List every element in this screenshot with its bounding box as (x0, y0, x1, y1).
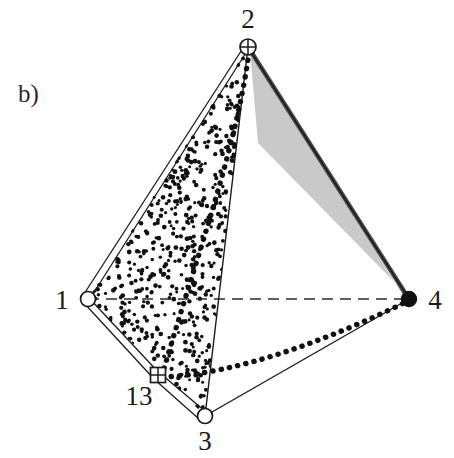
stipple-dot (179, 179, 182, 182)
stipple-dot (225, 107, 229, 111)
stipple-dot (214, 183, 217, 186)
stipple-dot (202, 196, 207, 201)
stipple-dot (170, 207, 173, 210)
stipple-dot (171, 232, 175, 236)
stipple-dot (188, 165, 191, 168)
stipple-dot (106, 276, 110, 280)
stipple-dot (97, 293, 100, 296)
stipple-dot (210, 225, 213, 228)
stipple-dot (150, 304, 154, 308)
stipple-dot (198, 355, 201, 358)
stipple-dot (230, 82, 234, 86)
stipple-dot (126, 319, 130, 323)
stipple-dot (120, 301, 124, 305)
stipple-dot (168, 185, 172, 189)
stipple-dot (195, 316, 199, 320)
stipple-dot (180, 361, 184, 365)
stipple-dot (180, 169, 183, 172)
stipple-dot (119, 306, 123, 310)
vertex-marker-1[interactable] (81, 292, 96, 307)
stipple-dot (180, 273, 184, 277)
stipple-dot (222, 206, 226, 210)
stipple-dot (142, 252, 146, 256)
stipple-dot (165, 246, 169, 250)
stipple-dot (182, 333, 185, 336)
stipple-dot (179, 201, 182, 204)
stipple-dot (151, 258, 155, 262)
stipple-dot (193, 323, 197, 327)
stipple-dot (145, 287, 149, 291)
vertex-marker-4[interactable] (402, 292, 417, 307)
stipple-dot (161, 346, 165, 350)
stipple-dot (205, 349, 208, 352)
stipple-dot (132, 328, 136, 332)
stipple-dot (144, 229, 148, 233)
stipple-dot (183, 388, 187, 392)
stipple-dot (141, 304, 145, 308)
stipple-dot (193, 201, 196, 204)
stipple-dot (129, 267, 133, 271)
stipple-dot (209, 264, 213, 268)
stipple-dot (171, 358, 174, 361)
stipple-dot (200, 285, 204, 289)
stipple-dot (128, 301, 131, 304)
stipple-dot (159, 255, 162, 258)
stipple-dot (169, 293, 173, 297)
stipple-dot (202, 305, 206, 309)
stipple-dot (175, 235, 179, 239)
stipple-dot (193, 159, 198, 164)
stipple-dot (196, 378, 201, 383)
stipple-dot (229, 102, 233, 106)
vertex-marker-2[interactable] (240, 39, 256, 55)
stipple-dot (160, 208, 164, 212)
stipple-dot (217, 223, 221, 227)
stipple-dot (202, 188, 206, 192)
stipple-dot (161, 195, 166, 200)
stipple-dot (167, 269, 171, 273)
stipple-dot (192, 320, 195, 323)
stipple-dot (186, 158, 191, 163)
stipple-dot (175, 287, 179, 291)
stipple-dot (185, 365, 188, 368)
stipple-dot (183, 348, 188, 353)
stipple-dot (119, 284, 123, 288)
stipple-dot (115, 260, 118, 263)
stipple-dot (155, 341, 159, 345)
stipple-dot (129, 281, 133, 285)
stipple-dot (200, 163, 203, 166)
stipple-dot (187, 299, 191, 303)
vertex-marker-13[interactable] (151, 368, 166, 383)
vertex-marker-3[interactable] (198, 409, 213, 424)
stipple-dot (158, 332, 163, 337)
stipple-dot (168, 220, 172, 224)
figure-container: 1 2 3 4 13 b) (0, 0, 454, 458)
stipple-dot (181, 174, 185, 178)
stipple-dot (212, 276, 215, 279)
stipple-dot (226, 103, 230, 107)
stipple-dot (178, 190, 182, 194)
stipple-dot (212, 262, 215, 265)
stipple-dot (158, 285, 162, 289)
stipple-dot (212, 287, 216, 291)
stipple-dot (181, 287, 184, 290)
stipple-dot (175, 199, 179, 203)
stipple-dot (169, 367, 173, 371)
stipple-dot (164, 211, 167, 214)
stipple-dot (156, 353, 160, 357)
stipple-dot (179, 166, 183, 170)
stipple-dot (183, 340, 188, 345)
stipple-dot (135, 319, 139, 323)
stipple-dot (192, 350, 196, 354)
stipple-dot (137, 288, 140, 291)
stipple-dot (210, 294, 213, 297)
stipple-dot (175, 290, 178, 293)
stipple-dot (187, 217, 190, 220)
stipple-dot (211, 186, 214, 189)
stipple-dot (224, 214, 228, 218)
stipple-dot (133, 313, 137, 317)
stipple-dot (177, 302, 180, 305)
stipple-dot (150, 333, 154, 337)
stipple-dot (187, 222, 190, 225)
stipple-dot (190, 244, 194, 248)
stipple-dot (162, 272, 167, 277)
